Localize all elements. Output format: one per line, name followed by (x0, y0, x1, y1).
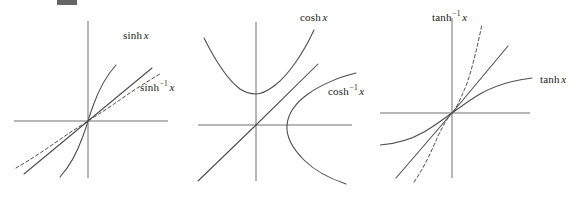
sinh-curve-label: sinhx (123, 30, 149, 41)
cosh-plot-svg (190, 0, 380, 197)
hyperbolic-functions-figure: sinhx sinh−1x coshx cosh−1x (0, 0, 585, 197)
cosh-axes (198, 22, 352, 181)
arcsinh-label-var: x (168, 81, 175, 93)
cosh-label-var: x (321, 11, 328, 23)
tanh-plot-svg (380, 0, 585, 197)
cosh-curve-label: coshx (300, 12, 328, 23)
cosh-panel: coshx cosh−1x (190, 0, 380, 197)
cosh-label-fn: cosh (300, 11, 321, 23)
arcsinh-label-exponent: −1 (159, 79, 168, 88)
arctanh-curve (414, 24, 482, 182)
arctanh-label-var: x (461, 11, 468, 23)
arctanh-label-fn: tanh (432, 11, 452, 23)
arccosh-label-var: x (358, 85, 365, 97)
arcsinh-curve-label: sinh−1x (140, 82, 175, 93)
identity-line (198, 64, 318, 181)
arccosh-label-exponent: −1 (349, 83, 358, 92)
sinh-plot-svg (0, 0, 190, 197)
tanh-curve (380, 78, 532, 145)
arcsinh-label-fn: sinh (140, 81, 159, 93)
sinh-label-var: x (142, 29, 149, 41)
arccosh-label-fn: cosh (328, 85, 349, 97)
arctanh-curve-label: tanh−1x (432, 12, 467, 23)
sinh-panel: sinhx sinh−1x (0, 0, 190, 197)
arccosh-curve-label: cosh−1x (328, 86, 364, 97)
tanh-label-fn: tanh (540, 73, 560, 85)
tanh-label-var: x (560, 73, 567, 85)
sinh-label-fn: sinh (123, 29, 142, 41)
tanh-axes (380, 18, 530, 178)
tanh-panel: tanh−1x tanhx (380, 0, 585, 197)
tanh-curve-label: tanhx (540, 74, 566, 85)
arctanh-label-exponent: −1 (452, 9, 461, 18)
